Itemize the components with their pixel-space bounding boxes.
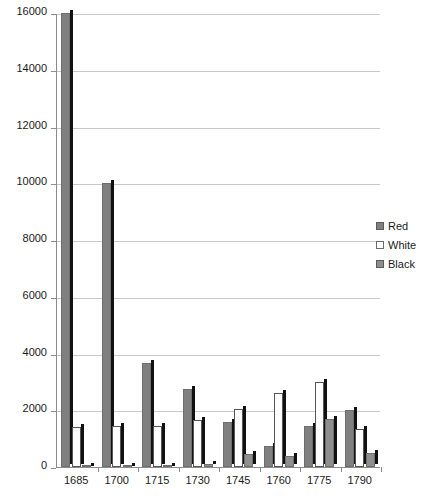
bar-red-1700[interactable]: [102, 183, 111, 467]
bar-white-1745[interactable]: [234, 409, 243, 467]
bar-group: [223, 14, 253, 467]
bar-white-1775[interactable]: [315, 382, 324, 467]
bar-shadow-corner: [294, 453, 297, 456]
bar-shadow: [334, 416, 337, 464]
x-axis-tick-mark: [260, 467, 261, 472]
bar-red-1790[interactable]: [345, 410, 354, 467]
y-axis-tick-mark: [51, 184, 56, 185]
bar-body: [72, 427, 81, 467]
x-axis-label-1775: 1775: [299, 474, 340, 486]
x-axis-label-1745: 1745: [218, 474, 259, 486]
y-axis-tick-label: 2000: [23, 403, 47, 414]
x-axis-tick-mark: [341, 467, 342, 472]
legend-item-white[interactable]: White: [376, 237, 421, 253]
x-axis-tick-mark: [219, 467, 220, 472]
x-axis-label-1685: 1685: [56, 474, 97, 486]
bar-shadow-corner: [192, 386, 195, 389]
bar-black-1685[interactable]: [82, 466, 91, 468]
legend-item-red[interactable]: Red: [376, 218, 421, 234]
bar-black-1745[interactable]: [244, 454, 253, 467]
bar-body: [234, 409, 243, 467]
legend-swatch-white-icon: [376, 241, 384, 249]
bar-red-1775[interactable]: [304, 426, 313, 467]
bar-shadow-corner: [243, 406, 246, 409]
bar-shadow-corner: [283, 390, 286, 393]
bar-body: [345, 410, 354, 467]
bar-body: [264, 446, 273, 467]
bar-black-1775[interactable]: [325, 419, 334, 467]
bar-red-1715[interactable]: [142, 363, 151, 467]
bar-white-1760[interactable]: [274, 393, 283, 467]
bar-black-1700[interactable]: [123, 466, 132, 468]
bar-body: [153, 426, 162, 467]
legend-label: White: [388, 239, 416, 251]
bar-group: [102, 14, 132, 467]
bar-red-1685[interactable]: [61, 13, 70, 467]
bar-body: [82, 465, 91, 467]
x-axis-label-1700: 1700: [97, 474, 138, 486]
bar-shadow-corner: [172, 463, 175, 466]
bar-group: [304, 14, 334, 467]
bar-chart: 0200040006000800010000120001400016000 16…: [0, 0, 421, 503]
bar-red-1730[interactable]: [183, 389, 192, 467]
bar-white-1700[interactable]: [112, 426, 121, 467]
bar-white-1790[interactable]: [355, 429, 364, 467]
bar-shadow-corner: [81, 424, 84, 427]
y-axis-tick-mark: [51, 14, 56, 15]
bar-body: [304, 426, 313, 467]
bar-shadow-corner: [213, 461, 216, 464]
plot-area: [56, 14, 380, 468]
x-axis-tick-mark: [300, 467, 301, 472]
bar-black-1760[interactable]: [285, 456, 294, 467]
y-axis-tick-label: 14000: [16, 63, 47, 74]
bar-group: [61, 14, 91, 467]
bar-shadow: [283, 390, 286, 464]
bar-body: [163, 465, 172, 467]
bar-red-1760[interactable]: [264, 446, 273, 467]
bar-shadow-corner: [162, 423, 165, 426]
bar-white-1730[interactable]: [193, 420, 202, 467]
x-axis-tick-mark: [138, 467, 139, 472]
bar-black-1790[interactable]: [366, 453, 375, 467]
bar-shadow-corner: [324, 379, 327, 382]
legend-label: Black: [388, 258, 415, 270]
bar-body: [61, 13, 70, 467]
y-axis-tick-label: 8000: [23, 233, 47, 244]
bar-body: [223, 422, 232, 467]
legend-item-black[interactable]: Black: [376, 256, 421, 272]
bar-shadow: [202, 417, 205, 464]
chart-legend: RedWhiteBlack: [376, 218, 421, 275]
x-axis-label-1715: 1715: [137, 474, 178, 486]
bar-shadow-corner: [111, 180, 114, 183]
bar-body: [366, 453, 375, 467]
bar-shadow: [81, 424, 84, 464]
bar-body: [325, 419, 334, 467]
bar-body: [142, 363, 151, 467]
x-axis-label-1760: 1760: [259, 474, 300, 486]
x-axis-tick-mark: [179, 467, 180, 472]
bar-shadow-corner: [132, 463, 135, 466]
y-axis-tick-mark: [51, 411, 56, 412]
legend-label: Red: [388, 220, 408, 232]
y-axis-tick-mark: [51, 241, 56, 242]
bar-shadow-corner: [334, 416, 337, 419]
bar-shadow-corner: [375, 450, 378, 453]
bar-black-1715[interactable]: [163, 466, 172, 468]
x-axis-label-1730: 1730: [178, 474, 219, 486]
bar-white-1715[interactable]: [153, 426, 162, 467]
bar-body: [112, 426, 121, 467]
bar-shadow: [70, 10, 73, 464]
bar-shadow: [162, 423, 165, 464]
bar-shadow: [121, 423, 124, 464]
bar-shadow: [111, 180, 114, 464]
legend-swatch-red-icon: [376, 222, 384, 230]
y-axis-tick-mark: [51, 71, 56, 72]
bar-shadow-corner: [91, 463, 94, 466]
bar-red-1745[interactable]: [223, 422, 232, 467]
x-axis-tick-mark: [98, 467, 99, 472]
bar-body: [102, 183, 111, 467]
bar-black-1730[interactable]: [204, 464, 213, 467]
bar-white-1685[interactable]: [72, 427, 81, 467]
bar-body: [315, 382, 324, 467]
y-axis-tick-mark: [51, 468, 56, 469]
